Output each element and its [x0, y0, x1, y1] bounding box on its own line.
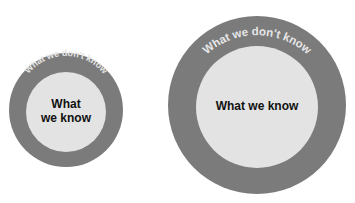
small-known-label-line2: we know — [40, 111, 92, 125]
knowledge-diagram: What we don't know What we know What we … — [0, 0, 355, 203]
small-known-label-line1: What — [51, 97, 80, 111]
small-knowledge-circle: What we don't know What we know — [9, 48, 123, 167]
large-known-label: What we know — [216, 99, 299, 113]
large-knowledge-circle: What we don't know What we know — [168, 16, 346, 194]
